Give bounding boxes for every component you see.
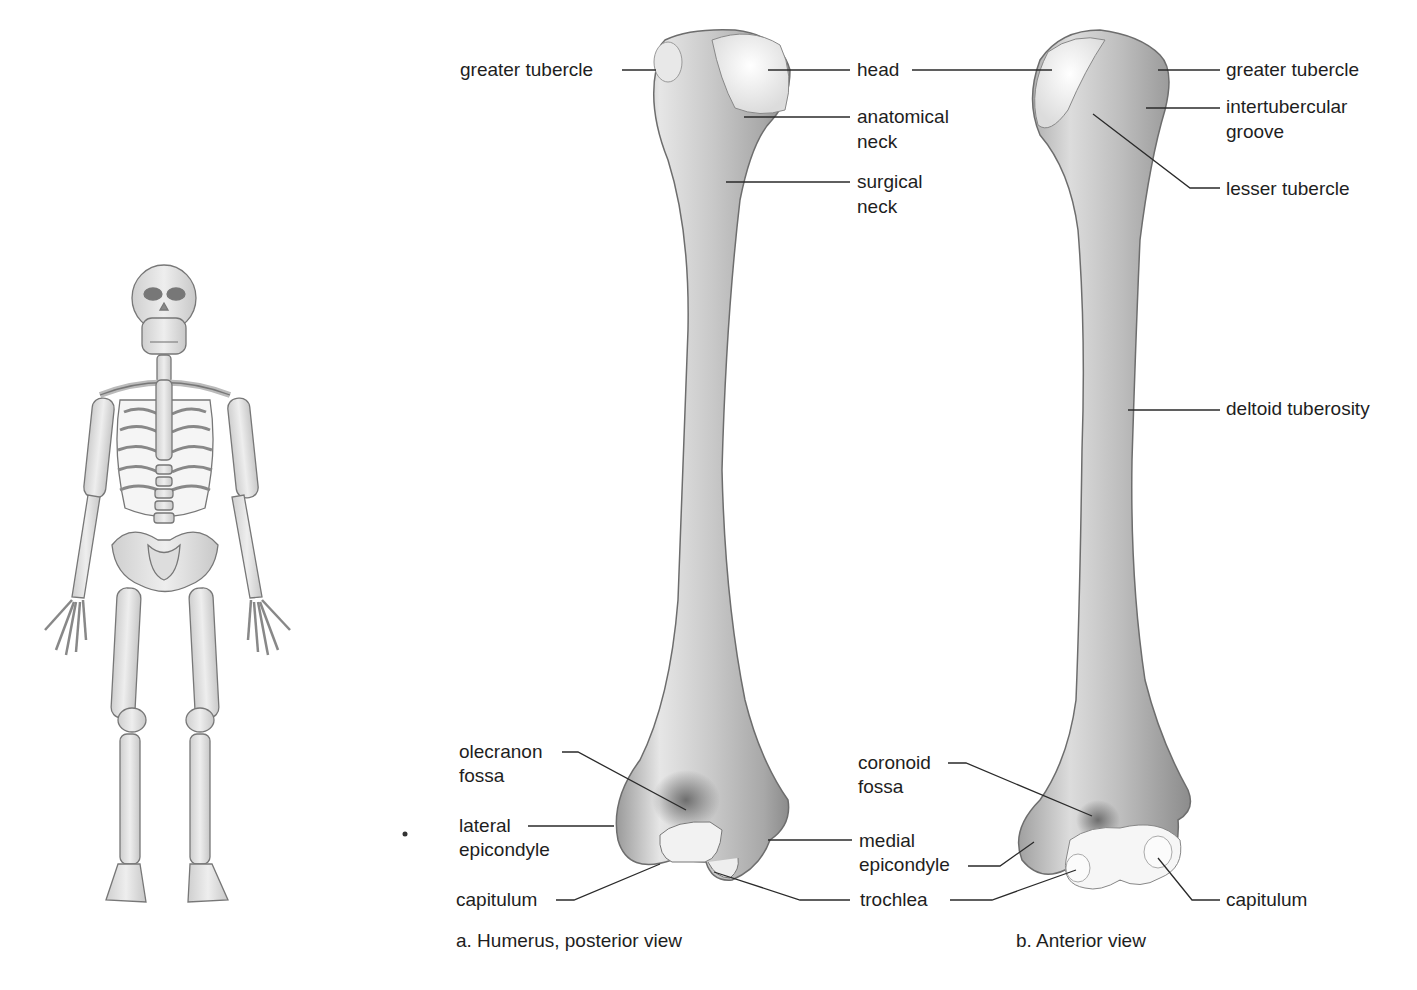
label-a-trochlea: trochlea	[860, 888, 928, 912]
label-b-intertubercular-groove-line2: groove	[1226, 120, 1284, 144]
label-b-coronoid-fossa-line1: coronoid	[858, 751, 931, 775]
label-a-head: head	[857, 58, 899, 82]
label-a-surgical-neck-line2: neck	[857, 195, 897, 219]
label-b-coronoid-fossa-line2: fossa	[858, 775, 903, 799]
label-a-anatomical-neck-line1: anatomical	[857, 105, 949, 129]
stray-dot	[403, 832, 408, 837]
label-b-greater-tubercle: greater tubercle	[1226, 58, 1359, 82]
label-a-lateral-epicondyle-line2: epicondyle	[459, 838, 550, 862]
label-a-olecranon-fossa-line1: olecranon	[459, 740, 542, 764]
label-a-surgical-neck-line1: surgical	[857, 170, 922, 194]
caption-a: a. Humerus, posterior view	[456, 930, 682, 952]
skeleton-illustration	[45, 265, 290, 902]
label-a-medial-epicondyle-line1: medial	[859, 829, 915, 853]
humerus-figure	[0, 0, 1417, 990]
label-a-capitulum: capitulum	[456, 888, 537, 912]
label-b-capitulum: capitulum	[1226, 888, 1307, 912]
label-b-deltoid-tuberosity: deltoid tuberosity	[1226, 397, 1370, 421]
label-a-olecranon-fossa-line2: fossa	[459, 764, 504, 788]
caption-b: b. Anterior view	[1016, 930, 1146, 952]
label-a-anatomical-neck-line2: neck	[857, 130, 897, 154]
label-b-lesser-tubercle: lesser tubercle	[1226, 177, 1350, 201]
label-a-greater-tubercle: greater tubercle	[460, 58, 593, 82]
humerus-anterior-illustration	[1019, 30, 1191, 889]
label-a-medial-epicondyle-line2: epicondyle	[859, 853, 950, 877]
humerus-posterior-illustration	[616, 30, 790, 880]
label-a-lateral-epicondyle-line1: lateral	[459, 814, 511, 838]
label-b-intertubercular-groove-line1: intertubercular	[1226, 95, 1347, 119]
